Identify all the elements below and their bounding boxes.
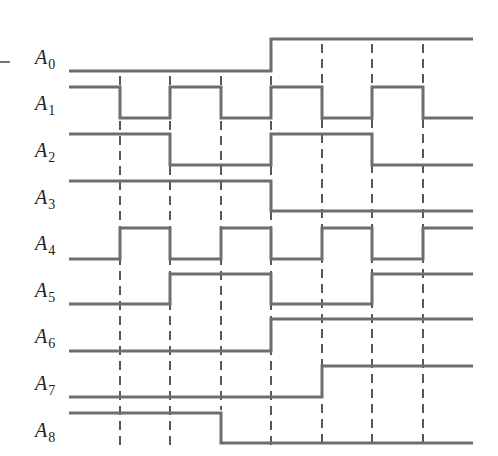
waveform-a3 (69, 181, 473, 211)
label-a4: A4 (33, 232, 55, 258)
label-a2: A2 (33, 139, 55, 165)
signal-labels: A0A1A2A3A4A5A6A7A8 (33, 46, 55, 445)
label-a5: A5 (33, 279, 55, 305)
timing-diagram: A0A1A2A3A4A5A6A7A8 (0, 0, 498, 456)
label-a7: A7 (33, 372, 55, 398)
label-a1: A1 (33, 92, 55, 118)
waveform-a1 (69, 87, 473, 118)
waveform-a0 (69, 39, 473, 71)
label-a0: A0 (33, 46, 55, 72)
waveform-a4 (69, 228, 473, 259)
waveform-a6 (69, 319, 473, 351)
waveform-a2 (69, 134, 473, 165)
label-a3: A3 (33, 186, 55, 212)
waveform-a5 (69, 274, 473, 304)
label-a8: A8 (33, 419, 55, 445)
label-a6: A6 (33, 325, 55, 351)
